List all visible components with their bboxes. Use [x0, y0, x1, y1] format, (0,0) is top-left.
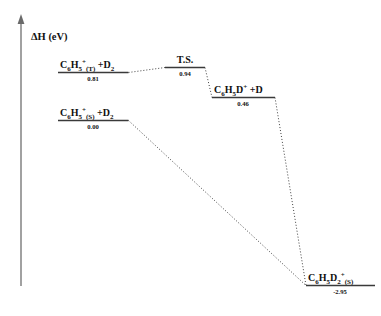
connector-singlet-to-product	[129, 121, 307, 286]
connector-ts-to-intermediate	[205, 68, 212, 98]
triplet-reactant-value: 0.81	[87, 75, 99, 82]
connector-triplet-to-ts	[129, 68, 166, 73]
transition-state-value: 0.94	[179, 70, 191, 77]
triplet-reactant-level: C6H5+(T) +D2 0.81	[58, 58, 129, 82]
connector-intermediate-to-product	[275, 98, 306, 286]
singlet-reactant-level: C6H5+(S) +D2 0.00	[58, 106, 129, 130]
energy-diagram-figure: ΔH (eV) C6H5+(T) +D2 0.81 T.S. 0.94 C6H5…	[0, 0, 381, 316]
final-product-level: C6H5D2+(S) -2.95	[306, 271, 375, 295]
axis-arrow-icon	[18, 14, 25, 24]
final-product-formula: C6H5D2+(S)	[308, 271, 354, 286]
transition-state-label: T.S.	[177, 54, 194, 65]
intermediate-product-value: 0.46	[237, 100, 249, 107]
final-product-value: -2.95	[333, 288, 347, 295]
singlet-reactant-formula: C6H5+(S) +D2	[60, 106, 114, 121]
singlet-reactant-value: 0.00	[87, 123, 99, 130]
diagram-canvas: ΔH (eV) C6H5+(T) +D2 0.81 T.S. 0.94 C6H5…	[0, 0, 381, 316]
transition-state-level: T.S. 0.94	[165, 54, 205, 77]
energy-axis	[18, 14, 25, 286]
triplet-reactant-formula: C6H5+(T) +D2	[60, 58, 115, 73]
axis-label: ΔH (eV)	[31, 31, 68, 43]
intermediate-product-level: C6H5D+ +D 0.46	[212, 83, 275, 107]
intermediate-product-formula: C6H5D+ +D	[214, 83, 263, 98]
